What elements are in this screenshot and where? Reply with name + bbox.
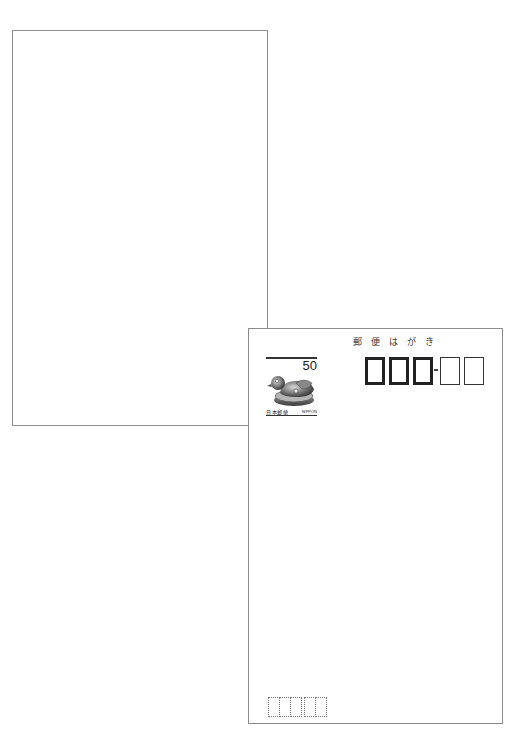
postal-code-box[interactable]: [464, 357, 484, 385]
postcard-title: 郵 便 は が き: [353, 335, 434, 348]
postcard-front: 郵 便 は が き 50: [248, 328, 503, 724]
mandarin-duck-icon: [266, 369, 318, 407]
title-char: 便: [371, 335, 380, 348]
postal-code-separator: [434, 369, 438, 371]
title-char: が: [407, 335, 416, 348]
title-char: は: [389, 335, 398, 348]
title-char: き: [425, 335, 434, 348]
sender-postal-code: [268, 697, 326, 717]
postcard-back: [12, 30, 268, 426]
postal-code-box[interactable]: [365, 357, 385, 385]
sender-postal-code-box[interactable]: [315, 697, 327, 717]
postal-code-box[interactable]: [389, 357, 409, 385]
postal-code-box[interactable]: [440, 357, 460, 385]
title-char: 郵: [353, 335, 362, 348]
stamp-bottom-bar: [266, 415, 317, 416]
postal-code-box[interactable]: [413, 357, 433, 385]
recipient-postal-code: [365, 357, 488, 385]
postage-stamp: 50 日本郵便 NIPPON: [266, 357, 318, 423]
